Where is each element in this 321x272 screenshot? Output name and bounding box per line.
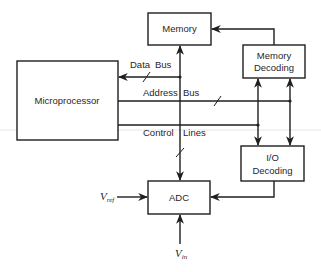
memory-decoding-label-line1: Memory (257, 50, 292, 61)
adc-block: ADC (148, 181, 210, 214)
adc-label: ADC (169, 192, 189, 203)
microprocessor-block: Microprocessor (17, 61, 118, 140)
vref-input: Vref (100, 190, 147, 204)
data-bus-label-word2: Bus (155, 59, 172, 70)
memory-label: Memory (162, 23, 197, 34)
vin-input: Vin (175, 215, 188, 261)
microprocessor-adc-block-diagram: Microprocessor Memory Memory Decoding I/… (0, 0, 321, 272)
vref-label: Vref (100, 190, 115, 204)
data-bus-label-word1: Data (130, 59, 151, 70)
control-lines-label-word1: Control (143, 127, 174, 138)
memory-decoding-label-line2: Decoding (254, 62, 294, 73)
decoding-connections (258, 79, 290, 145)
adc-select-line (211, 181, 274, 197)
memory-block: Memory (148, 13, 211, 45)
vin-label: Vin (175, 247, 188, 261)
io-decoding-label-line2: Decoding (252, 165, 292, 176)
address-bus-label-word2: Bus (183, 87, 200, 98)
data-bus: Data Bus (119, 59, 180, 82)
memory-select-line (212, 29, 274, 45)
io-decoding-label-line1: I/O (266, 152, 279, 163)
vertical-bus (176, 46, 184, 180)
control-lines: Control Lines (118, 123, 260, 138)
control-lines-label-word2: Lines (183, 127, 206, 138)
io-decoding-block: I/O Decoding (241, 146, 304, 181)
memory-decoding-block: Memory Decoding (243, 45, 305, 78)
microprocessor-label: Microprocessor (35, 95, 100, 106)
address-bus-label-word1: Address (143, 87, 178, 98)
address-bus: Address Bus (118, 87, 292, 106)
